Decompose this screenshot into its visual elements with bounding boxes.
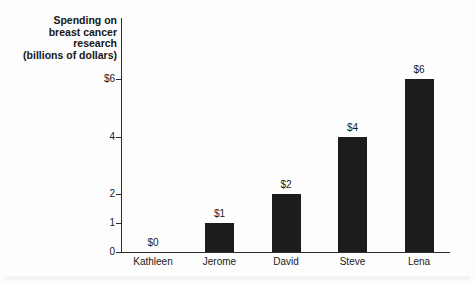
y-tick-mark	[116, 252, 121, 253]
y-tick-label: 4	[81, 131, 115, 143]
bar-value-label: $2	[266, 179, 306, 191]
x-category-label: Jerome	[187, 256, 253, 268]
bar-value-label: $1	[200, 208, 240, 220]
x-axis-line	[121, 252, 450, 253]
bar-lena	[405, 79, 434, 252]
y-tick-mark	[116, 79, 121, 80]
bar-value-label: $0	[133, 237, 173, 249]
chart-plot-area: $64210$0Kathleen$1Jerome$2David$4Steve$6…	[0, 0, 475, 284]
x-category-label: David	[253, 256, 319, 268]
bar-value-label: $6	[399, 64, 439, 76]
bar-david	[272, 194, 301, 252]
y-tick-mark	[116, 137, 121, 138]
y-tick-mark	[116, 223, 121, 224]
y-tick-label: 2	[81, 188, 115, 200]
y-tick-label: 0	[81, 246, 115, 258]
y-axis-line	[121, 18, 122, 253]
y-tick-label: $6	[81, 73, 115, 85]
x-category-label: Steve	[320, 256, 386, 268]
y-tick-label: 1	[81, 217, 115, 229]
scan-artifact	[4, 276, 471, 280]
y-tick-mark	[116, 194, 121, 195]
bar-value-label: $4	[333, 122, 373, 134]
bar-steve	[338, 137, 367, 252]
bar-jerome	[205, 223, 234, 252]
bar-chart-figure: Spending on breast cancer research (bill…	[0, 0, 475, 284]
x-category-label: Lena	[386, 256, 452, 268]
x-category-label: Kathleen	[120, 256, 186, 268]
